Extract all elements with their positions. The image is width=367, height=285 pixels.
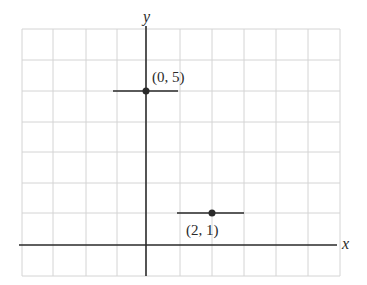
point-0-5: (0, 5): [113, 69, 185, 95]
point-marker-a: [143, 88, 150, 95]
coordinate-plane: x y (0, 5) (2, 1): [0, 0, 367, 285]
x-axis-label: x: [341, 235, 349, 252]
grid: [22, 29, 340, 276]
point-2-1: (2, 1): [177, 210, 244, 240]
y-axis-label: y: [141, 8, 151, 26]
point-label-a: (0, 5): [152, 69, 185, 86]
point-marker-b: [209, 210, 216, 217]
point-label-b: (2, 1): [186, 222, 219, 239]
